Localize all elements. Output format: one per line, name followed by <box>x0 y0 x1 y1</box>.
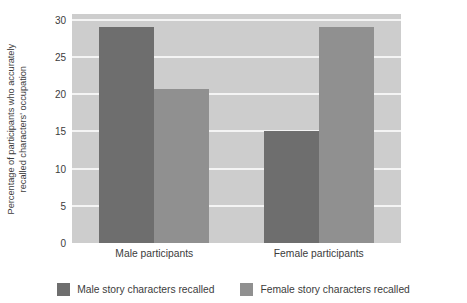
bar-2-2 <box>319 27 374 243</box>
gridline-30 <box>72 19 401 21</box>
plot-area <box>72 14 401 243</box>
bar-1-2 <box>154 89 209 243</box>
x-category-label-2: Female participants <box>274 248 364 259</box>
bar-1-1 <box>99 27 154 243</box>
y-tick-label-20: 20 <box>55 89 66 100</box>
y-axis-tick-labels: 051015202530 <box>34 0 72 258</box>
x-category-label-1: Male participants <box>115 248 193 259</box>
chart-legend: Male story characters recalledFemale sto… <box>0 279 467 299</box>
y-tick-label-30: 30 <box>55 14 66 25</box>
y-tick-label-10: 10 <box>55 163 66 174</box>
y-axis-title-line-1: Percentage of participants who accuratel… <box>5 44 17 215</box>
legend-swatch-1 <box>57 283 70 296</box>
legend-item-1: Male story characters recalled <box>57 283 214 296</box>
y-tick-label-15: 15 <box>55 126 66 137</box>
legend-item-2: Female story characters recalled <box>240 283 409 296</box>
y-tick-label-0: 0 <box>60 238 66 249</box>
y-tick-label-5: 5 <box>60 200 66 211</box>
x-axis-category-labels: Male participantsFemale participants <box>72 248 401 264</box>
y-axis-title: Percentage of participants who accuratel… <box>0 0 34 258</box>
legend-label-2: Female story characters recalled <box>260 284 409 295</box>
y-axis-title-line-2: recalled characters' occupation <box>17 44 29 215</box>
y-tick-label-25: 25 <box>55 52 66 63</box>
bar-chart-figure: Percentage of participants who accuratel… <box>0 0 467 303</box>
legend-label-1: Male story characters recalled <box>77 284 214 295</box>
legend-swatch-2 <box>240 283 253 296</box>
bar-2-1 <box>264 131 319 243</box>
